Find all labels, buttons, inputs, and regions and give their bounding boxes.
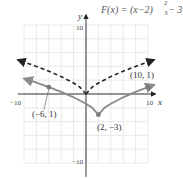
function-label: F(x) = (x−2) bbox=[101, 5, 153, 15]
x-tick-min: −10 bbox=[10, 100, 21, 107]
annotation-10-1: (10, 1) bbox=[130, 71, 154, 80]
data-point bbox=[46, 85, 51, 90]
x-tick-max: 10 bbox=[146, 100, 153, 107]
exponent-numerator: 2 bbox=[164, 0, 168, 7]
x-axis-label: x bbox=[158, 98, 162, 107]
chart-canvas bbox=[0, 0, 183, 178]
function-label-suffix: − 3 bbox=[168, 5, 182, 15]
exponent-denominator: 3 bbox=[164, 10, 168, 17]
annotation-neg6-1: (−6, 1) bbox=[32, 110, 57, 119]
annotation-2-neg3: (2, −3) bbox=[97, 123, 122, 132]
y-tick-min: −10 bbox=[72, 159, 83, 166]
data-point bbox=[146, 85, 151, 90]
annotation-leader-line bbox=[44, 89, 49, 110]
data-point bbox=[96, 112, 101, 117]
y-axis-label: y bbox=[78, 12, 82, 21]
y-tick-max: 10 bbox=[76, 25, 83, 32]
